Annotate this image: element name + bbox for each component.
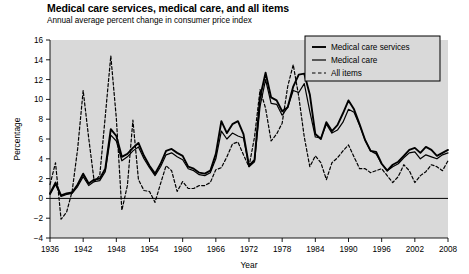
y-tick-label: 12	[34, 76, 44, 85]
y-tick-label: 4	[38, 155, 43, 164]
y-tick-label: 16	[34, 36, 44, 45]
y-axis-ticks: −4−20246810121416	[34, 36, 50, 243]
legend-label: All items	[331, 69, 362, 78]
y-tick-label: −4	[34, 234, 44, 243]
x-tick-label: 1972	[240, 245, 259, 254]
x-tick-label: 1954	[140, 245, 159, 254]
y-tick-label: −2	[34, 214, 44, 223]
x-axis-ticks: 1936194219481954196019661972197819841990…	[41, 238, 458, 254]
chart-plot: −4−20246810121416 1936194219481954196019…	[0, 0, 469, 274]
x-tick-label: 1966	[207, 245, 226, 254]
y-axis-title: Percentage	[12, 117, 22, 160]
x-tick-label: 1984	[306, 245, 325, 254]
x-tick-label: 1948	[107, 245, 126, 254]
y-tick-label: 8	[38, 115, 43, 124]
x-axis-title: Year	[241, 260, 258, 270]
y-tick-label: 2	[38, 175, 43, 184]
y-tick-label: 10	[34, 95, 44, 104]
x-tick-label: 1960	[174, 245, 193, 254]
y-tick-label: 0	[38, 194, 43, 203]
x-tick-label: 1996	[373, 245, 392, 254]
x-tick-label: 1978	[273, 245, 292, 254]
x-tick-label: 1942	[74, 245, 93, 254]
x-tick-label: 2002	[406, 245, 425, 254]
y-tick-label: 6	[38, 135, 43, 144]
x-tick-label: 1936	[41, 245, 60, 254]
x-tick-label: 1990	[339, 245, 358, 254]
legend-label: Medical care	[331, 56, 378, 65]
y-tick-label: 14	[34, 56, 44, 65]
x-tick-label: 2008	[439, 245, 458, 254]
chart-legend: Medical care servicesMedical careAll ite…	[305, 36, 440, 81]
legend-label: Medical care services	[331, 43, 410, 52]
